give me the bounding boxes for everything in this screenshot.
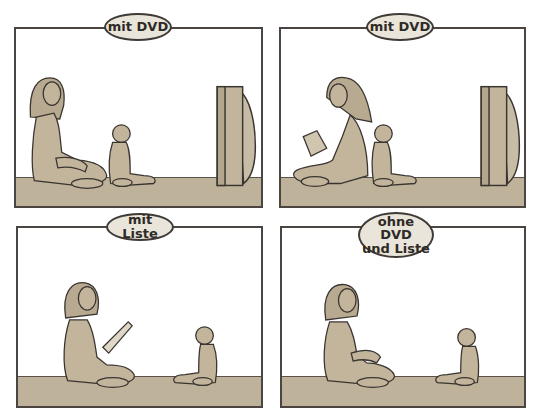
scene-illustration — [18, 228, 261, 406]
mother-figure — [30, 78, 107, 189]
child-figure — [109, 125, 155, 187]
label-bubble-mit-dvd-2: mit DVD — [366, 13, 434, 41]
label-text-line1: ohne DVD — [360, 215, 432, 242]
label-text: mit Liste — [108, 213, 172, 240]
scene-illustration — [281, 29, 524, 206]
child-figure — [174, 327, 217, 386]
panel-mit-dvd-watching — [14, 27, 263, 208]
label-bubble-mit-dvd: mit DVD — [104, 13, 172, 41]
panel-mit-liste — [16, 226, 263, 408]
mother-figure — [64, 283, 134, 388]
child-figure — [436, 329, 479, 386]
label-bubble-ohne-dvd-und-liste: ohne DVD und Liste — [358, 212, 434, 258]
label-text: mit DVD — [108, 20, 168, 34]
tv-figure — [481, 87, 519, 186]
scene-illustration — [16, 29, 261, 206]
panel-mit-dvd-reading — [279, 27, 526, 208]
label-text: mit DVD — [370, 20, 430, 34]
tv-figure — [217, 87, 255, 186]
child-figure — [372, 125, 416, 187]
label-text-line2: und Liste — [362, 242, 430, 256]
mother-figure — [294, 77, 372, 186]
label-bubble-mit-liste: mit Liste — [106, 213, 174, 241]
mother-figure — [324, 285, 394, 388]
